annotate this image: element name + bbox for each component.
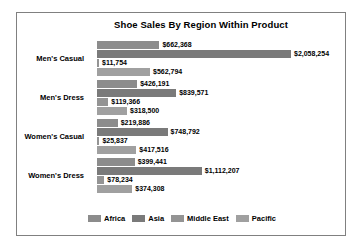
- bar-value-label: $374,308: [134, 184, 165, 193]
- bar-row: $1,112,207: [97, 167, 347, 175]
- bar-africa[interactable]: [97, 80, 137, 88]
- legend-swatch-icon: [171, 215, 184, 222]
- bar-asia[interactable]: [97, 167, 202, 175]
- bar-africa[interactable]: [97, 119, 118, 127]
- chart-title: Shoe Sales By Region Within Product: [17, 19, 345, 30]
- bar-value-label: $25,837: [101, 136, 128, 145]
- bar-row: $662,368: [97, 41, 347, 49]
- bar-row: $119,366: [97, 98, 347, 106]
- bar-value-label: $1,112,207: [204, 166, 241, 175]
- bar-group: Women's Dress$399,441$1,112,207$78,234$3…: [17, 156, 347, 195]
- bar-value-label: $399,441: [137, 157, 168, 166]
- bar-asia[interactable]: [97, 50, 291, 58]
- bar-value-label: $318,500: [129, 106, 160, 115]
- chart-container: Shoe Sales By Region Within Product Men'…: [16, 12, 346, 236]
- bar-value-label: $426,191: [139, 79, 170, 88]
- bar-middle-east[interactable]: [97, 176, 104, 184]
- chart-legend: AfricaAsiaMiddle EastPacific: [17, 214, 347, 223]
- legend-item-pacific[interactable]: Pacific: [236, 214, 276, 223]
- bar-pacific[interactable]: [97, 107, 127, 115]
- bar-middle-east[interactable]: [97, 137, 99, 145]
- bar-row: $748,792: [97, 128, 347, 136]
- bar-value-label: $839,571: [178, 88, 209, 97]
- bars-wrapper: $219,886$748,792$25,837$417,516: [97, 118, 347, 156]
- legend-label: Africa: [104, 214, 125, 223]
- category-label-2: Men's Dress: [17, 78, 89, 117]
- bar-asia[interactable]: [97, 89, 176, 97]
- bar-row: $25,837: [97, 137, 347, 145]
- bar-value-label: $11,754: [101, 58, 128, 67]
- bar-africa[interactable]: [97, 158, 135, 166]
- legend-item-asia[interactable]: Asia: [132, 214, 164, 223]
- bars-wrapper: $426,191$839,571$119,366$318,500: [97, 79, 347, 117]
- bar-row: $426,191: [97, 80, 347, 88]
- legend-label: Asia: [148, 214, 164, 223]
- bar-row: $839,571: [97, 89, 347, 97]
- bar-group: Men's Dress$426,191$839,571$119,366$318,…: [17, 78, 347, 117]
- plot-area: Men's Casual$662,368$2,058,254$11,754$56…: [17, 37, 347, 207]
- legend-swatch-icon: [88, 215, 101, 222]
- bar-row: $2,058,254: [97, 50, 347, 58]
- bar-middle-east[interactable]: [97, 59, 99, 67]
- bar-group: Men's Casual$662,368$2,058,254$11,754$56…: [17, 39, 347, 78]
- legend-label: Middle East: [187, 214, 229, 223]
- bars-wrapper: $662,368$2,058,254$11,754$562,794: [97, 40, 347, 78]
- category-label-3: Women's Casual: [17, 117, 89, 156]
- bars-wrapper: $399,441$1,112,207$78,234$374,308: [97, 157, 347, 195]
- bar-value-label: $562,794: [152, 67, 183, 76]
- bar-value-label: $119,366: [110, 97, 141, 106]
- bar-value-label: $662,368: [161, 40, 192, 49]
- bar-row: $562,794: [97, 68, 347, 76]
- bar-value-label: $748,792: [170, 127, 201, 136]
- legend-swatch-icon: [132, 215, 145, 222]
- category-label-1: Men's Casual: [17, 39, 89, 78]
- bar-row: $374,308: [97, 185, 347, 193]
- bar-middle-east[interactable]: [97, 98, 108, 106]
- legend-item-middle-east[interactable]: Middle East: [171, 214, 229, 223]
- category-label-4: Women's Dress: [17, 156, 89, 195]
- legend-item-africa[interactable]: Africa: [88, 214, 125, 223]
- bar-value-label: $219,886: [120, 118, 151, 127]
- bar-row: $417,516: [97, 146, 347, 154]
- bar-value-label: $78,234: [106, 175, 133, 184]
- bar-row: $399,441: [97, 158, 347, 166]
- legend-swatch-icon: [236, 215, 249, 222]
- bar-row: $318,500: [97, 107, 347, 115]
- bar-row: $11,754: [97, 59, 347, 67]
- bar-africa[interactable]: [97, 41, 159, 49]
- bar-pacific[interactable]: [97, 68, 150, 76]
- bar-pacific[interactable]: [97, 146, 136, 154]
- bar-row: $78,234: [97, 176, 347, 184]
- bar-asia[interactable]: [97, 128, 168, 136]
- legend-label: Pacific: [252, 214, 276, 223]
- bar-row: $219,886: [97, 119, 347, 127]
- bar-pacific[interactable]: [97, 185, 132, 193]
- bar-value-label: $2,058,254: [293, 49, 330, 58]
- bar-group: Women's Casual$219,886$748,792$25,837$41…: [17, 117, 347, 156]
- bar-value-label: $417,516: [138, 145, 169, 154]
